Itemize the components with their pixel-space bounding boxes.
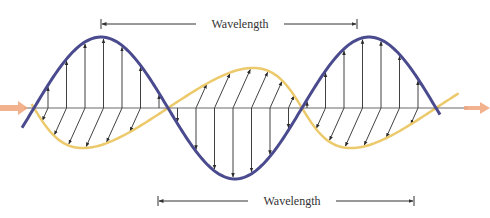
propagation-arrow-right-icon	[464, 102, 490, 114]
top-wavelength-label: Wavelength	[207, 17, 272, 31]
propagation-arrow-left-icon	[0, 101, 28, 115]
bottom-wavelength-label: Wavelength	[259, 194, 324, 208]
em-wave-figure: Wavelength Wavelength	[0, 0, 490, 218]
em-wave-diagram	[0, 0, 490, 218]
